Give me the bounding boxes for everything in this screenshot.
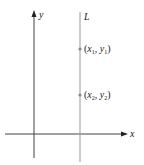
y-axis-label: y (38, 9, 44, 20)
coordinate-diagram: y x L (x1, y1) (x2, y2) (0, 0, 144, 165)
svg-text:(x2, y2): (x2, y2) (84, 89, 111, 101)
point-1-marker (78, 47, 81, 50)
x-axis-label: x (129, 128, 135, 139)
svg-text:(x1, y1): (x1, y1) (84, 43, 111, 55)
x-axis-arrow-icon (121, 132, 128, 137)
line-L-label: L (83, 11, 90, 22)
point-1-label: (x1, y1) (84, 43, 111, 55)
point-2-marker (78, 93, 81, 96)
point-2-label: (x2, y2) (84, 89, 111, 101)
y-axis-arrow-icon (32, 10, 37, 17)
